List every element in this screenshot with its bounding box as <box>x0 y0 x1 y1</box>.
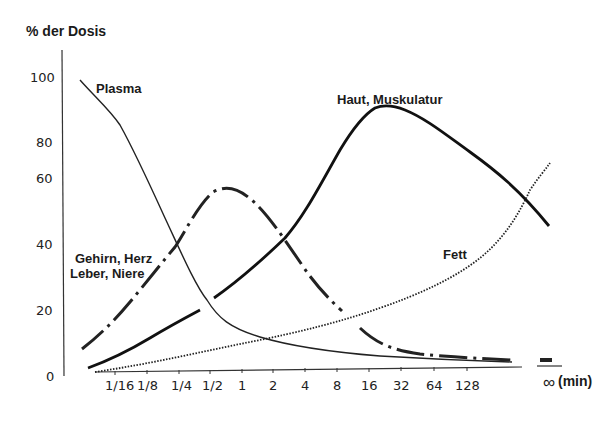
x-tick-128: 128 <box>455 378 480 393</box>
x-unit-label: (min) <box>558 373 592 389</box>
x-tick-1-8: 1/8 <box>137 378 158 393</box>
label-fat: Fett <box>443 247 468 262</box>
organs-curve <box>82 188 512 360</box>
x-tick-16: 16 <box>361 378 378 393</box>
x-tick-64: 64 <box>426 378 443 393</box>
y-tick-40: 40 <box>36 237 53 252</box>
chart: 100 80 60 40 20 0 1/16 1/8 1/4 1/2 1 2 4… <box>0 0 616 421</box>
infinity-marker <box>540 358 552 362</box>
x-tick-2: 2 <box>269 378 277 393</box>
y-tick-0: 0 <box>46 369 54 384</box>
x-tick-1-2: 1/2 <box>202 378 223 393</box>
label-plasma: Plasma <box>96 81 142 96</box>
y-tick-60: 60 <box>36 171 53 186</box>
x-tick-1: 1 <box>238 378 246 393</box>
x-tick-4: 4 <box>301 378 309 393</box>
x-tick-1-4: 1/4 <box>171 378 192 393</box>
y-tick-80: 80 <box>36 135 53 150</box>
muscle-curve <box>88 106 549 368</box>
y-axis-label: % der Dosis <box>26 23 106 39</box>
x-tick-1-16: 1/16 <box>105 378 134 393</box>
label-organs-line1: Gehirn, Herz <box>75 251 153 266</box>
plasma-curve <box>80 80 512 362</box>
label-organs-line2: Leber, Niere <box>70 266 144 281</box>
label-muscle: Haut, Muskulatur <box>337 92 442 107</box>
x-tick-32: 32 <box>393 378 410 393</box>
x-tick-8: 8 <box>333 378 341 393</box>
fat-curve <box>95 163 550 372</box>
y-tick-100: 100 <box>30 70 55 85</box>
x-tick-infinity: ∞ <box>543 373 555 392</box>
x-axis <box>95 367 522 372</box>
y-axis <box>62 50 64 376</box>
y-tick-20: 20 <box>36 303 53 318</box>
